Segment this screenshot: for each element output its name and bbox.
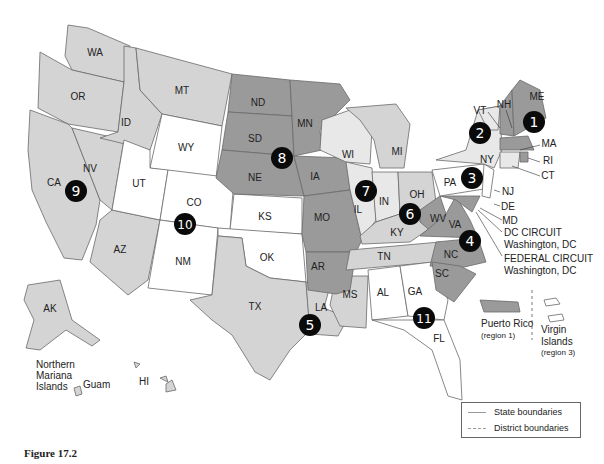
label-NV: NV [83, 163, 97, 174]
circuit-marker-11: 11 [413, 307, 435, 329]
label-NJ: NJ [502, 186, 514, 197]
dc-circuit-location: Washington, DC [504, 239, 576, 250]
label-AK: AK [43, 303, 57, 314]
solid-line-icon [468, 412, 486, 413]
label-KY: KY [390, 227, 404, 238]
dc-circuit-label: DC CIRCUIT [504, 227, 562, 238]
label-ND: ND [251, 97, 265, 108]
nmi-label-2: Mariana [36, 370, 73, 381]
federal-circuit-location: Washington, DC [504, 265, 576, 276]
label-AR: AR [311, 261, 325, 272]
circuit-marker-1: 1 [523, 111, 545, 133]
us-circuit-map: WA OR CA NV ID MT WY UT CO AZ NM ND SD N… [0, 0, 604, 464]
svg-text:1: 1 [530, 114, 539, 130]
label-OH: OH [410, 189, 425, 200]
circuit-marker-8: 8 [271, 147, 293, 169]
label-AZ: AZ [114, 244, 127, 255]
circuit-marker-10: 10 [174, 213, 196, 235]
label-SC: SC [435, 268, 449, 279]
label-MO: MO [314, 212, 330, 223]
circuit-marker-6: 6 [399, 203, 421, 225]
label-KS: KS [258, 211, 272, 222]
label-NM: NM [175, 256, 191, 267]
label-PA: PA [444, 177, 457, 188]
label-FL: FL [433, 333, 445, 344]
label-MS: MS [343, 289, 358, 300]
dashed-line-icon [468, 428, 486, 429]
label-WV: WV [430, 213, 446, 224]
circuit-marker-9: 9 [65, 180, 87, 202]
label-NE: NE [248, 172, 262, 183]
label-MT: MT [175, 85, 189, 96]
label-TX: TX [249, 301, 262, 312]
svg-text:3: 3 [468, 170, 477, 186]
label-CO: CO [187, 197, 202, 208]
territory-virgin-islands [544, 298, 564, 322]
label-NC: NC [444, 249, 458, 260]
label-WA: WA [87, 47, 103, 58]
label-LA: LA [315, 302, 328, 313]
svg-text:6: 6 [406, 206, 415, 222]
svg-text:11: 11 [416, 312, 431, 326]
state-RI [520, 152, 528, 162]
guam-label: Guam [83, 379, 110, 390]
state-FL [372, 320, 462, 400]
virgin-islands-region: (region 3) [541, 348, 576, 357]
label-TN: TN [377, 251, 390, 262]
svg-text:2: 2 [476, 125, 485, 141]
label-NY: NY [480, 154, 494, 165]
label-IA: IA [310, 171, 320, 182]
label-MD: MD [502, 215, 518, 226]
puerto-rico-region: (region 1) [481, 331, 516, 340]
label-OR: OR [71, 91, 86, 102]
label-SD: SD [248, 133, 262, 144]
label-OK: OK [260, 252, 275, 263]
label-IL: IL [354, 204, 363, 215]
legend-district-boundaries: District boundaries [468, 421, 580, 435]
label-VT: VT [474, 105, 487, 116]
label-ID: ID [121, 117, 131, 128]
label-GA: GA [408, 286, 423, 297]
state-ND [228, 74, 292, 116]
label-UT: UT [132, 178, 145, 189]
label-RI: RI [543, 155, 553, 166]
label-MI: MI [391, 146, 402, 157]
label-AL: AL [377, 287, 390, 298]
state-AK [24, 280, 100, 350]
svg-text:5: 5 [306, 317, 315, 333]
virgin-islands-label-1: Virgin [541, 324, 566, 335]
puerto-rico-label: Puerto Rico [481, 318, 534, 329]
label-MN: MN [297, 118, 313, 129]
svg-text:10: 10 [177, 218, 192, 232]
label-WY: WY [178, 142, 194, 153]
svg-text:4: 4 [466, 233, 475, 249]
label-CA: CA [47, 177, 61, 188]
label-IN: IN [379, 196, 389, 207]
virgin-islands-label-2: Islands [541, 336, 573, 347]
federal-circuit-label: FEDERAL CIRCUIT [504, 253, 593, 264]
label-DE: DE [501, 201, 515, 212]
state-IA [294, 156, 350, 196]
label-VA: VA [449, 219, 462, 230]
svg-text:9: 9 [72, 183, 81, 199]
nmi-label-1: Northern [36, 359, 75, 370]
circuit-marker-7: 7 [355, 180, 377, 202]
state-CT [500, 152, 520, 168]
label-HI: HI [139, 376, 149, 387]
label-NH: NH [497, 99, 511, 110]
territory-puerto-rico [480, 300, 520, 312]
label-MA: MA [542, 138, 557, 149]
territory-guam [74, 386, 82, 396]
nmi-label-3: Islands [36, 381, 68, 392]
legend-state-boundaries: State boundaries [468, 405, 580, 419]
circuit-marker-5: 5 [299, 314, 321, 336]
circuit-marker-2: 2 [469, 122, 491, 144]
label-CT: CT [541, 170, 554, 181]
label-WI: WI [342, 149, 354, 160]
svg-text:8: 8 [278, 150, 287, 166]
circuit-marker-3: 3 [461, 167, 483, 189]
state-NJ [482, 164, 494, 198]
circuit-marker-4: 4 [459, 230, 481, 252]
figure-caption: Figure 17.2 [24, 447, 77, 459]
map-legend: State boundaries District boundaries [461, 402, 581, 438]
